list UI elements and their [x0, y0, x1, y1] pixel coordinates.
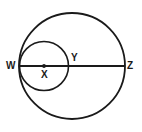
geometry-figure: W X Y Z	[0, 0, 142, 132]
point-label-w: W	[6, 61, 15, 71]
point-label-y: Y	[71, 53, 78, 63]
geometry-canvas	[0, 0, 142, 132]
point-label-x: X	[41, 70, 48, 80]
center-point-dot-x	[42, 64, 46, 68]
point-label-z: Z	[127, 61, 133, 71]
